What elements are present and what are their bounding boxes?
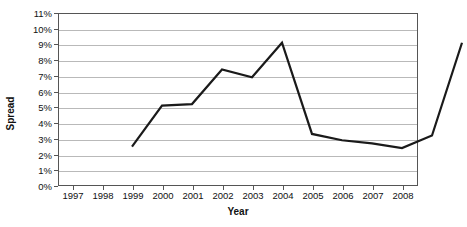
x-tick-label: 1997: [62, 190, 83, 201]
y-axis-title: Spread: [0, 0, 20, 227]
y-tick-mark: [54, 186, 58, 187]
x-tick-label: 1998: [92, 190, 113, 201]
x-tick-mark: [73, 186, 74, 190]
plot-area: [58, 13, 418, 186]
x-tick-mark: [103, 186, 104, 190]
series-line-spread: [132, 43, 462, 148]
series-spread: [117, 27, 467, 200]
x-axis-title: Year: [58, 206, 418, 217]
